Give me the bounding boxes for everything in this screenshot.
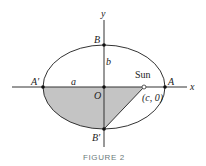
- point-A-prime: [41, 85, 45, 89]
- label-B: B: [94, 34, 100, 45]
- label-A: A: [167, 76, 175, 87]
- x-axis-label: x: [189, 81, 195, 92]
- point-O: [102, 85, 106, 89]
- label-b: b: [106, 56, 111, 67]
- diagram-canvas: y x B b A′ a O Sun A (c, 0) B′ FIGURE 2: [0, 0, 206, 166]
- label-O: O: [94, 90, 101, 101]
- focus-sun-point: [142, 85, 146, 89]
- point-B: [102, 43, 106, 47]
- point-B-prime: [102, 127, 106, 131]
- focus-coords-label: (c, 0): [142, 92, 164, 104]
- label-a: a: [71, 76, 76, 87]
- label-A-prime: A′: [30, 76, 40, 87]
- ellipse-orbit-figure: y x B b A′ a O Sun A (c, 0) B′ FIGURE 2: [0, 0, 206, 166]
- figure-caption: FIGURE 2: [83, 153, 125, 162]
- y-axis-label: y: [100, 8, 106, 19]
- label-B-prime: B′: [92, 132, 101, 143]
- sun-label: Sun: [135, 69, 151, 80]
- point-A: [163, 85, 167, 89]
